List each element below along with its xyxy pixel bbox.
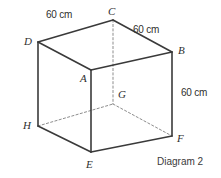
hidden-edges-group <box>38 20 172 136</box>
edge-H-E <box>38 126 91 152</box>
edge-D-A <box>38 42 91 70</box>
diagram-caption: Diagram 2 <box>157 157 203 167</box>
vertex-label-h: H <box>23 120 31 131</box>
edge-G-F <box>113 104 172 136</box>
vertex-label-g: G <box>118 89 126 100</box>
dimension-CB: 60 cm <box>133 25 159 35</box>
diagram-canvas: CDBAGHFE 60 cm60 cm60 cm Diagram 2 <box>0 0 221 178</box>
vertex-label-d: D <box>24 36 32 47</box>
edge-D-C <box>38 20 113 42</box>
vertex-label-b: B <box>178 45 185 56</box>
dimension-BF: 60 cm <box>181 88 207 98</box>
vertex-label-e: E <box>86 159 93 170</box>
edge-A-B <box>91 52 172 70</box>
dimension-DC: 60 cm <box>46 10 72 20</box>
vertex-label-c: C <box>108 6 115 17</box>
vertex-label-f: F <box>177 133 184 144</box>
vertex-label-a: A <box>80 73 87 84</box>
edge-H-G <box>38 104 113 126</box>
edge-E-F <box>91 136 172 152</box>
visible-edges-group <box>38 20 172 152</box>
